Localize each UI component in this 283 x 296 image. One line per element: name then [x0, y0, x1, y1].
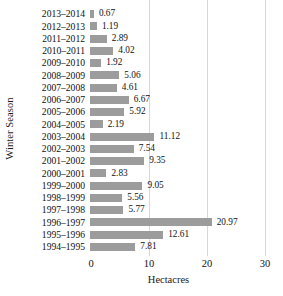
bar-cell: 1.19 — [90, 20, 283, 32]
bar-cell: 2.89 — [90, 33, 283, 45]
bar-cell: 0.67 — [90, 8, 283, 20]
category-label: 2008–2009 — [18, 71, 90, 81]
bar-cell: 9.05 — [90, 180, 283, 192]
bar-cell: 7.81 — [90, 241, 283, 253]
bar-row: 2003–200411.12 — [18, 131, 283, 143]
category-label: 2000–2001 — [18, 169, 90, 179]
bar-value-label: 1.19 — [97, 22, 118, 31]
bar-value-label: 5.56 — [122, 193, 143, 202]
x-tick-label: 0 — [88, 258, 93, 269]
bar-value-label: 11.12 — [154, 132, 180, 141]
bar-row: 2012–20131.19 — [18, 20, 283, 32]
bar-rows: 2013–20140.672012–20131.192011–20122.892… — [18, 8, 283, 254]
bar — [90, 108, 124, 116]
bar-cell: 2.19 — [90, 118, 283, 130]
bar-row: 2004–20052.19 — [18, 118, 283, 130]
bar-chart: Winter Season 2013–20140.672012–20131.19… — [0, 0, 283, 296]
category-label: 2010–2011 — [18, 46, 90, 56]
bar-cell: 4.61 — [90, 82, 283, 94]
category-label: 2012–2013 — [18, 22, 90, 32]
bar-row: 1999–20009.05 — [18, 180, 283, 192]
bar-value-label: 2.89 — [107, 34, 128, 43]
bar — [90, 206, 123, 214]
category-label: 1997–1998 — [18, 205, 90, 215]
category-label: 1995–1996 — [18, 230, 90, 240]
bar-value-label: 12.61 — [163, 230, 189, 239]
category-label: 2005–2006 — [18, 107, 90, 117]
bar-value-label: 2.19 — [103, 120, 124, 129]
bar-row: 2008–20095.06 — [18, 69, 283, 81]
bar-value-label: 1.92 — [101, 58, 122, 67]
bar-cell: 20.97 — [90, 216, 283, 228]
category-label: 2007–2008 — [18, 83, 90, 93]
x-axis-title-text: Hectacres — [148, 274, 189, 285]
bar-value-label: 5.77 — [123, 205, 144, 214]
bar-row: 2000–20012.83 — [18, 167, 283, 179]
bar — [90, 157, 144, 165]
bar-row: 1994–19957.81 — [18, 241, 283, 253]
bar-row: 2007–20084.61 — [18, 82, 283, 94]
bar-row: 2001–20029.35 — [18, 155, 283, 167]
bar-row: 2002–20037.54 — [18, 143, 283, 155]
bar — [90, 231, 163, 239]
bar-cell: 5.77 — [90, 204, 283, 216]
bar-cell: 1.92 — [90, 57, 283, 69]
bar-cell: 4.02 — [90, 45, 283, 57]
bar-value-label: 2.83 — [106, 169, 127, 178]
bar-value-label: 5.92 — [124, 107, 145, 116]
bar-cell: 7.54 — [90, 143, 283, 155]
bar — [90, 120, 103, 128]
bar-row: 2009–20101.92 — [18, 57, 283, 69]
category-label: 2013–2014 — [18, 9, 90, 19]
bar-value-label: 4.61 — [117, 83, 138, 92]
category-label: 2011–2012 — [18, 34, 90, 44]
bar — [90, 182, 142, 190]
y-axis-title: Winter Season — [0, 0, 18, 256]
bar-row: 2010–20114.02 — [18, 45, 283, 57]
bar-cell: 5.06 — [90, 69, 283, 81]
bar — [90, 84, 117, 92]
category-label: 1998–1999 — [18, 193, 90, 203]
bar-value-label: 4.02 — [113, 46, 134, 55]
bar — [90, 71, 119, 79]
bar-value-label: 5.06 — [119, 71, 140, 80]
bar-cell: 12.61 — [90, 229, 283, 241]
category-label: 1999–2000 — [18, 181, 90, 191]
bar-value-label: 7.81 — [135, 242, 156, 251]
bar-row: 2006–20076.67 — [18, 94, 283, 106]
bar-value-label: 20.97 — [212, 218, 238, 227]
bar-row: 1998–19995.56 — [18, 192, 283, 204]
bar-row: 1995–199612.61 — [18, 229, 283, 241]
bar — [90, 169, 106, 177]
category-label: 2004–2005 — [18, 120, 90, 130]
bar — [90, 35, 107, 43]
bar — [90, 218, 212, 226]
bar-cell: 2.83 — [90, 167, 283, 179]
bar-value-label: 6.67 — [129, 95, 150, 104]
x-tick-label: 20 — [202, 258, 213, 269]
bar — [90, 133, 154, 141]
bar — [90, 145, 134, 153]
bar-value-label: 0.67 — [94, 9, 115, 18]
bar-value-label: 9.35 — [144, 156, 165, 165]
bar — [90, 96, 129, 104]
bar-cell: 6.67 — [90, 94, 283, 106]
bar-cell: 5.92 — [90, 106, 283, 118]
category-label: 2006–2007 — [18, 95, 90, 105]
category-label: 2001–2002 — [18, 156, 90, 166]
bar-value-label: 7.54 — [134, 144, 155, 153]
y-axis-title-text: Winter Season — [4, 97, 15, 159]
bar-cell: 5.56 — [90, 192, 283, 204]
bar — [90, 59, 101, 67]
category-label: 2002–2003 — [18, 144, 90, 154]
category-label: 1994–1995 — [18, 242, 90, 252]
bar-value-label: 9.05 — [142, 181, 163, 190]
bar-row: 2011–20122.89 — [18, 33, 283, 45]
bar-cell: 9.35 — [90, 155, 283, 167]
bar-row: 2005–20065.92 — [18, 106, 283, 118]
bar-cell: 11.12 — [90, 131, 283, 143]
bar — [90, 22, 97, 30]
x-axis-title: Hectacres — [0, 274, 283, 285]
bar-row: 2013–20140.67 — [18, 8, 283, 20]
bar — [90, 243, 135, 251]
